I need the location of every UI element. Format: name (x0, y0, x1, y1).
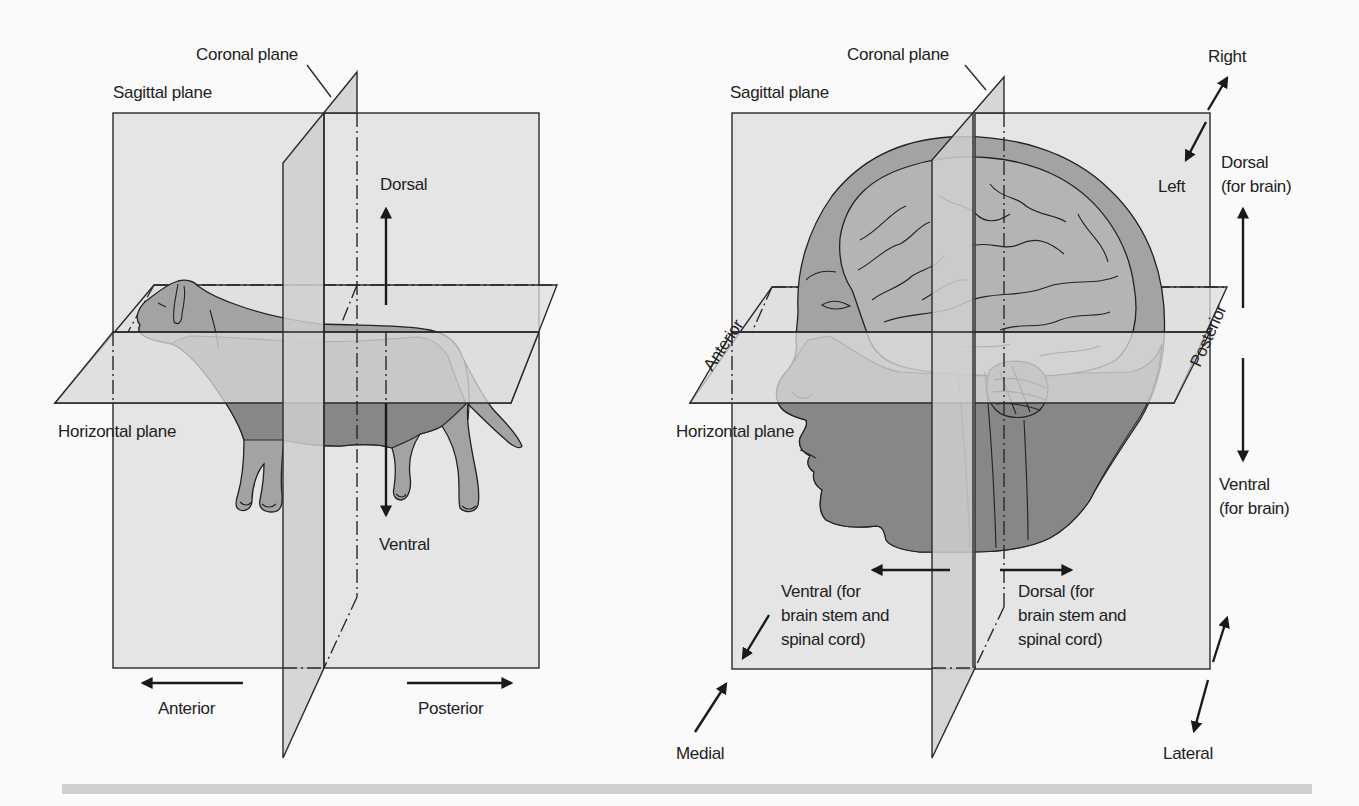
dorsal-stem-label-line1: Dorsal (for (1018, 582, 1095, 601)
dog-figure: Coronal plane Sagittal plane Dorsal Hori… (55, 45, 557, 758)
human-coronal-plane-label: Coronal plane (847, 45, 949, 64)
dog-sagittal-plane-label: Sagittal plane (113, 83, 212, 102)
bottom-divider-bar (62, 784, 1312, 794)
dog-anterior-label: Anterior (158, 699, 216, 718)
medial-label: Medial (676, 744, 724, 763)
human-coronal-leader-line (965, 65, 986, 90)
dorsal-stem-label-line2: brain stem and (1018, 606, 1126, 625)
dorsal-brain-label-line1: Dorsal (1221, 153, 1268, 172)
lateral-arrow (1194, 680, 1208, 731)
dog-horizontal-plane-label: Horizontal plane (58, 422, 176, 441)
lateral-arrow-upper (1213, 618, 1227, 662)
dorsal-brain-label-line2: (for brain) (1221, 177, 1291, 196)
lateral-label: Lateral (1163, 744, 1213, 763)
human-horizontal-plane-label: Horizontal plane (676, 422, 794, 441)
human-sagittal-plane-label: Sagittal plane (730, 83, 829, 102)
right-label: Right (1208, 47, 1247, 66)
dog-coronal-leader-line (307, 65, 331, 97)
left-label: Left (1158, 177, 1186, 196)
dorsal-stem-label-line3: spinal cord) (1018, 630, 1102, 649)
ventral-stem-label-line3: spinal cord) (781, 630, 865, 649)
dog-posterior-label: Posterior (418, 699, 484, 718)
dog-dorsal-label: Dorsal (380, 175, 427, 194)
ventral-brain-label-line2: (for brain) (1219, 499, 1289, 518)
right-arrow (1208, 78, 1227, 110)
dog-ventral-label: Ventral (379, 535, 430, 554)
human-head-figure: Anterior Posterior Coronal plane Sagitta… (676, 45, 1291, 763)
ventral-stem-label-line2: brain stem and (781, 606, 889, 625)
ventral-stem-label-line1: Ventral (for (781, 582, 861, 601)
dog-coronal-plane-label: Coronal plane (196, 45, 298, 64)
medial-arrow (695, 684, 726, 732)
anatomical-planes-diagram: Coronal plane Sagittal plane Dorsal Hori… (0, 0, 1359, 806)
ventral-brain-label-line1: Ventral (1219, 475, 1270, 494)
